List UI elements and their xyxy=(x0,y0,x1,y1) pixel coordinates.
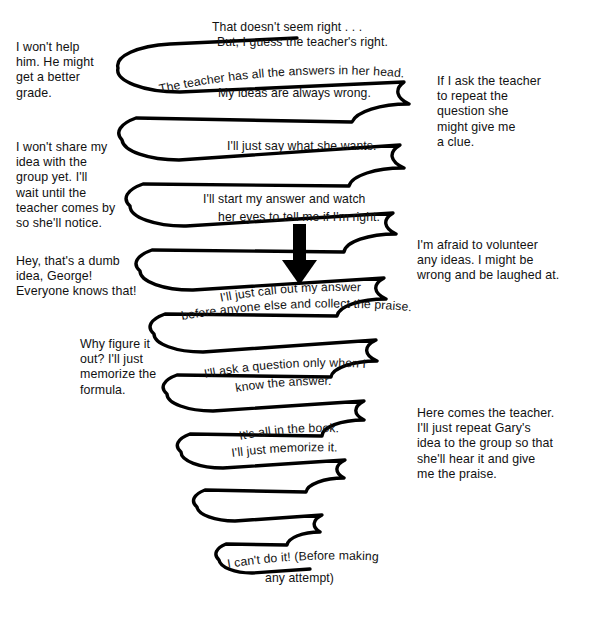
diagram-canvas: The teacher has all the answers in her h… xyxy=(0,0,594,622)
right-note-1: If I ask the teacher to repeat the quest… xyxy=(437,74,587,150)
spiral-label-1-line1: That doesn't seem right . . . xyxy=(212,20,362,34)
spiral-label-1: That doesn't seem right . . .But, I gues… xyxy=(212,20,388,50)
left-note-4: Why figure it out? I'll just memorize th… xyxy=(80,337,195,398)
spiral-label-4: I'll just say what she wants. xyxy=(227,139,377,154)
spiral-label-9-line1: I can't do it! (Before making xyxy=(226,549,379,571)
spiral-label-1-line2: But, I guess the teacher's right. xyxy=(217,35,388,50)
spiral-label-5-line1: I'll start my answer and watch xyxy=(203,192,365,206)
spiral-label-5-line2-wrap: her eyes to tell me if I'm right. xyxy=(218,210,380,225)
spiral-label-3: My ideas are always wrong. xyxy=(218,86,371,101)
downward-arrow xyxy=(282,224,317,285)
left-note-2: I won't share my idea with the group yet… xyxy=(16,140,151,231)
left-note-1: I won't help him. He might get a better … xyxy=(16,40,136,101)
right-note-2: I'm afraid to volunteer any ideas. I mig… xyxy=(417,238,592,284)
spiral-label-8-line1: It's all in the book. xyxy=(238,421,340,443)
spiral-label-5-line2: her eyes to tell me if I'm right. xyxy=(218,210,380,224)
left-note-3: Hey, that's a dumb idea, George! Everyon… xyxy=(16,254,156,300)
spiral-label-9-line2-wrap: any attempt) xyxy=(265,571,334,586)
spiral-label-5: I'll start my answer and watch xyxy=(203,192,365,207)
spiral-label-4-line1: I'll just say what she wants. xyxy=(227,139,377,153)
spiral-label-8-line2: I'll just memorize it. xyxy=(231,440,338,460)
spiral-label-6-line2: before anyone else and collect the prais… xyxy=(180,296,412,322)
spiral-label-9-line2: any attempt) xyxy=(265,571,334,585)
right-note-3: Here comes the teacher. I'll just repeat… xyxy=(417,406,587,482)
spiral-label-3-line1: My ideas are always wrong. xyxy=(218,86,371,100)
